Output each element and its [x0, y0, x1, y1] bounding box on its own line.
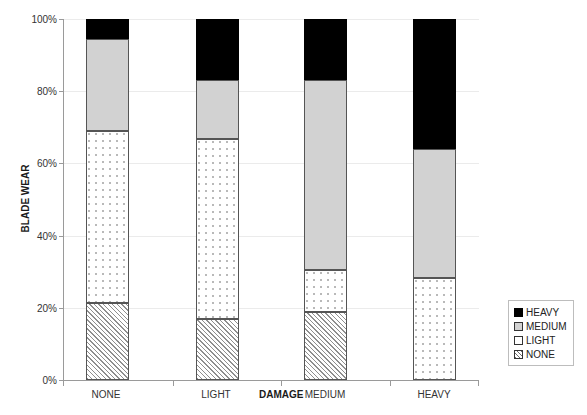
- x-label-light: LIGHT: [171, 389, 261, 400]
- x-tick-left: [63, 381, 64, 386]
- x-axis-title: DAMAGE: [259, 389, 303, 400]
- plot-area: [63, 19, 479, 381]
- bar-light-seg-none[interactable]: [196, 319, 239, 380]
- bar-none-seg-none[interactable]: [86, 303, 129, 380]
- x-tick-right: [478, 381, 479, 386]
- legend-item-medium[interactable]: MEDIUM: [514, 319, 567, 333]
- legend-swatch-none-icon: [514, 350, 523, 359]
- y-tick-80: [59, 91, 64, 92]
- y-tick-label-100: 100%: [31, 14, 57, 25]
- x-tick-3: [390, 381, 391, 386]
- legend-item-light[interactable]: LIGHT: [514, 333, 567, 347]
- bar-medium-seg-heavy[interactable]: [304, 19, 347, 80]
- bar-light-seg-medium[interactable]: [196, 80, 239, 139]
- legend-label-medium: MEDIUM: [526, 321, 567, 332]
- bar-light-seg-light[interactable]: [196, 139, 239, 319]
- bar-light-seg-heavy[interactable]: [196, 19, 239, 80]
- x-tick-2: [281, 381, 282, 386]
- stacked-bar-chart: 100% 80% 60% 40% 20% 0% BLADE WEAR: [0, 0, 587, 415]
- legend-swatch-medium-icon: [514, 322, 523, 331]
- bar-none-seg-heavy[interactable]: [86, 19, 129, 39]
- bar-heavy[interactable]: [413, 19, 456, 380]
- legend: HEAVY MEDIUM LIGHT NONE: [508, 300, 574, 366]
- y-tick-label-40: 40%: [37, 231, 57, 242]
- y-tick-label-60: 60%: [37, 158, 57, 169]
- y-tick-label-0: 0%: [43, 375, 57, 386]
- y-tick-label-80: 80%: [37, 86, 57, 97]
- x-label-none: NONE: [61, 389, 151, 400]
- bar-medium-seg-medium[interactable]: [304, 80, 347, 270]
- legend-label-light: LIGHT: [526, 335, 555, 346]
- bar-medium-seg-none[interactable]: [304, 312, 347, 380]
- x-tick-1: [173, 381, 174, 386]
- legend-label-none: NONE: [526, 349, 555, 360]
- bar-none-seg-light[interactable]: [86, 131, 129, 303]
- bar-none[interactable]: [86, 19, 129, 380]
- y-tick-60: [59, 163, 64, 164]
- bar-heavy-seg-light[interactable]: [413, 278, 456, 380]
- y-tick-label-20: 20%: [37, 303, 57, 314]
- legend-swatch-light-icon: [514, 336, 523, 345]
- bar-heavy-seg-heavy[interactable]: [413, 19, 456, 149]
- bar-none-seg-medium[interactable]: [86, 39, 129, 131]
- legend-swatch-heavy-icon: [514, 308, 523, 317]
- y-tick-40: [59, 236, 64, 237]
- legend-item-heavy[interactable]: HEAVY: [514, 305, 567, 319]
- bar-medium[interactable]: [304, 19, 347, 380]
- y-tick-20: [59, 308, 64, 309]
- bar-heavy-seg-medium[interactable]: [413, 149, 456, 278]
- legend-label-heavy: HEAVY: [526, 307, 559, 318]
- bar-medium-seg-light[interactable]: [304, 270, 347, 312]
- bar-light[interactable]: [196, 19, 239, 380]
- x-label-heavy: HEAVY: [389, 389, 479, 400]
- y-axis-title: BLADE WEAR: [20, 165, 31, 233]
- legend-item-none[interactable]: NONE: [514, 347, 567, 361]
- y-tick-100: [59, 19, 64, 20]
